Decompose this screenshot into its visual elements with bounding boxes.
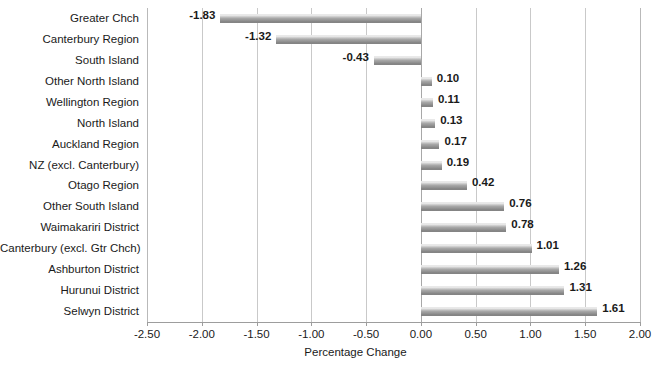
bar-value-label: 0.42 bbox=[472, 176, 494, 189]
bar-value-label: -1.32 bbox=[245, 30, 271, 43]
bar-row: -1.32 bbox=[147, 29, 640, 50]
x-axis-tick-label: 0.50 bbox=[464, 327, 486, 341]
category-label: Ashburton District bbox=[0, 263, 143, 275]
bar bbox=[421, 307, 597, 316]
bar bbox=[421, 161, 442, 170]
bar-row: 1.31 bbox=[147, 280, 640, 301]
bar-row: 0.13 bbox=[147, 113, 640, 134]
bar-chart: Greater ChchCanterbury RegionSouth Islan… bbox=[0, 0, 657, 371]
bar-row: 0.42 bbox=[147, 175, 640, 196]
bar bbox=[421, 286, 565, 295]
x-axis-tick-label: 2.00 bbox=[629, 327, 651, 341]
bar bbox=[276, 35, 421, 44]
category-label: Wellington Region bbox=[0, 96, 143, 108]
bar bbox=[421, 77, 432, 86]
x-axis-tick bbox=[147, 322, 148, 326]
bar-row: 0.76 bbox=[147, 196, 640, 217]
bar-row: 0.78 bbox=[147, 217, 640, 238]
x-axis-tick-label: -1.50 bbox=[243, 327, 269, 341]
bar bbox=[421, 244, 532, 253]
category-label: Selwyn District bbox=[0, 305, 143, 317]
plot-area: -1.83-1.32-0.430.100.110.130.170.190.420… bbox=[147, 8, 640, 322]
bar-value-label: 0.78 bbox=[511, 218, 533, 231]
category-label: NZ (excl. Canterbury) bbox=[0, 159, 143, 171]
bar-row: 0.17 bbox=[147, 134, 640, 155]
bar-value-label: 0.10 bbox=[437, 72, 459, 85]
bar-value-label: 0.76 bbox=[509, 197, 531, 210]
bar bbox=[374, 56, 421, 65]
bar-value-label: 0.11 bbox=[438, 93, 460, 106]
x-axis-tick bbox=[366, 322, 367, 326]
bar-row: 1.61 bbox=[147, 301, 640, 322]
bar-row: 0.19 bbox=[147, 155, 640, 176]
x-axis-tick bbox=[585, 322, 586, 326]
bar bbox=[421, 181, 467, 190]
x-axis-tick bbox=[640, 322, 641, 326]
bar-value-label: 1.26 bbox=[564, 260, 586, 273]
bar bbox=[421, 202, 504, 211]
bar-value-label: -1.83 bbox=[189, 9, 215, 22]
bar-row: 1.26 bbox=[147, 259, 640, 280]
bar-row: 1.01 bbox=[147, 238, 640, 259]
bar bbox=[220, 14, 420, 23]
bar-value-label: 0.19 bbox=[447, 156, 469, 169]
x-axis-tick-label: 0.00 bbox=[410, 327, 432, 341]
category-axis-labels: Greater ChchCanterbury RegionSouth Islan… bbox=[0, 8, 143, 322]
x-axis-tick bbox=[311, 322, 312, 326]
category-label: South Island bbox=[0, 54, 143, 66]
category-label: Canterbury (excl. Gtr Chch) bbox=[0, 242, 143, 254]
bar-row: 0.11 bbox=[147, 92, 640, 113]
category-label: Canterbury Region bbox=[0, 33, 143, 45]
category-label: North Island bbox=[0, 117, 143, 129]
x-axis-tick-label: -2.00 bbox=[189, 327, 215, 341]
bar-value-label: -0.43 bbox=[343, 51, 369, 64]
x-axis-tick-label: 1.50 bbox=[574, 327, 596, 341]
gridline bbox=[640, 8, 641, 322]
bar bbox=[421, 98, 433, 107]
x-axis-tick bbox=[530, 322, 531, 326]
bar-row: -1.83 bbox=[147, 8, 640, 29]
bar bbox=[421, 119, 435, 128]
bar-value-label: 1.31 bbox=[569, 281, 591, 294]
category-label: Waimakariri District bbox=[0, 221, 143, 233]
x-axis-line bbox=[147, 322, 640, 323]
category-label: Auckland Region bbox=[0, 138, 143, 150]
bar-value-label: 1.61 bbox=[602, 302, 624, 315]
category-label: Other South Island bbox=[0, 200, 143, 212]
bar-value-label: 1.01 bbox=[537, 239, 559, 252]
category-label: Hurunui District bbox=[0, 284, 143, 296]
bar bbox=[421, 140, 440, 149]
x-axis-tick-label: -2.50 bbox=[134, 327, 160, 341]
category-label: Greater Chch bbox=[0, 12, 143, 24]
bar bbox=[421, 223, 506, 232]
x-axis-tick-label: -0.50 bbox=[353, 327, 379, 341]
x-axis-title-label: Percentage Change bbox=[304, 346, 406, 358]
x-axis-tick bbox=[202, 322, 203, 326]
x-axis-tick-label: -1.00 bbox=[298, 327, 324, 341]
x-axis-tick-label: 1.00 bbox=[519, 327, 541, 341]
x-axis-title: Percentage Change bbox=[0, 346, 657, 358]
x-axis-tick bbox=[257, 322, 258, 326]
bar bbox=[421, 265, 559, 274]
category-label: Other North Island bbox=[0, 75, 143, 87]
bar-row: -0.43 bbox=[147, 50, 640, 71]
bar-row: 0.10 bbox=[147, 71, 640, 92]
bar-value-label: 0.17 bbox=[445, 135, 467, 148]
x-axis-tick bbox=[476, 322, 477, 326]
bar-value-label: 0.13 bbox=[440, 114, 462, 127]
category-label: Otago Region bbox=[0, 179, 143, 191]
x-axis-tick bbox=[421, 322, 422, 326]
